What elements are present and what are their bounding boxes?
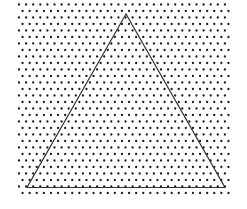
- lattice-dot: [220, 88, 222, 90]
- lattice-dot: [131, 120, 133, 122]
- lattice-dot: [43, 166, 45, 168]
- lattice-dot: [178, 49, 180, 51]
- lattice-dot: [224, 133, 226, 135]
- lattice-dot: [57, 10, 59, 12]
- lattice-dot: [181, 133, 183, 135]
- lattice-dot: [174, 146, 176, 148]
- lattice-dot: [92, 75, 94, 77]
- lattice-dot: [206, 36, 208, 38]
- lattice-dot: [89, 120, 91, 122]
- lattice-dot: [188, 94, 190, 96]
- lattice-dot: [50, 23, 52, 25]
- lattice-dot: [78, 114, 80, 116]
- lattice-dot: [110, 55, 112, 57]
- lattice-dot: [96, 29, 98, 31]
- lattice-dot: [110, 133, 112, 135]
- lattice-dot: [25, 146, 27, 148]
- lattice-dot: [21, 62, 23, 64]
- lattice-dot: [60, 172, 62, 174]
- lattice-dot: [217, 42, 219, 44]
- lattice-dot: [171, 62, 173, 64]
- lattice-dot: [142, 23, 144, 25]
- lattice-dot: [142, 140, 144, 142]
- lattice-dot: [135, 75, 137, 77]
- lattice-dot: [89, 16, 91, 18]
- lattice-dot: [82, 133, 84, 135]
- lattice-dot: [128, 114, 130, 116]
- lattice-dot: [213, 192, 215, 194]
- lattice-dot: [121, 36, 123, 38]
- lattice-dot: [188, 172, 190, 174]
- lattice-dot: [68, 16, 70, 18]
- lattice-dot: [50, 153, 52, 155]
- lattice-dot: [199, 179, 201, 181]
- lattice-dot: [135, 140, 137, 142]
- lattice-dot: [220, 10, 222, 12]
- lattice-dot: [227, 36, 229, 38]
- lattice-dot: [139, 3, 141, 5]
- lattice-dot: [220, 192, 222, 194]
- lattice-dot: [64, 23, 66, 25]
- lattice-dot: [217, 16, 219, 18]
- lattice-dot: [107, 36, 109, 38]
- lattice-dot: [156, 153, 158, 155]
- lattice-dot: [128, 101, 130, 103]
- lattice-dot: [29, 10, 31, 12]
- lattice-dot: [174, 159, 176, 161]
- lattice-dot: [192, 10, 194, 12]
- lattice-dot: [139, 133, 141, 135]
- lattice-dot: [156, 88, 158, 90]
- lattice-dot: [213, 88, 215, 90]
- lattice-dot: [160, 94, 162, 96]
- lattice-dot: [128, 75, 130, 77]
- lattice-dot: [50, 75, 52, 77]
- lattice-dot: [21, 179, 23, 181]
- lattice-dot: [53, 42, 55, 44]
- lattice-dot: [75, 159, 77, 161]
- lattice-dot: [117, 3, 119, 5]
- lattice-dot: [153, 159, 155, 161]
- lattice-dot: [39, 159, 41, 161]
- lattice-dot: [29, 153, 31, 155]
- lattice-dot: [68, 94, 70, 96]
- lattice-dot: [46, 133, 48, 135]
- lattice-dot: [174, 68, 176, 70]
- lattice-dot: [64, 10, 66, 12]
- lattice-dot: [57, 140, 59, 142]
- lattice-dot: [53, 29, 55, 31]
- lattice-dot: [227, 62, 229, 64]
- lattice-dot: [213, 36, 215, 38]
- lattice-dot: [100, 166, 102, 168]
- lattice-dot: [18, 185, 20, 187]
- lattice-dot: [206, 127, 208, 129]
- lattice-dot: [167, 133, 169, 135]
- lattice-dot: [220, 166, 222, 168]
- lattice-dot: [46, 16, 48, 18]
- lattice-dot: [110, 68, 112, 70]
- lattice-dot: [124, 120, 126, 122]
- lattice-dot: [64, 101, 66, 103]
- lattice-dot: [163, 36, 165, 38]
- lattice-dot: [213, 114, 215, 116]
- lattice-dot: [153, 107, 155, 109]
- lattice-dot: [68, 81, 70, 83]
- lattice-dot: [199, 166, 201, 168]
- lattice-dot: [149, 10, 151, 12]
- lattice-dot: [142, 62, 144, 64]
- lattice-dot: [92, 127, 94, 129]
- lattice-dot: [174, 120, 176, 122]
- lattice-dot: [178, 36, 180, 38]
- lattice-dot: [146, 172, 148, 174]
- lattice-dot: [181, 159, 183, 161]
- lattice-dot: [25, 29, 27, 31]
- lattice-dot: [68, 3, 70, 5]
- lattice-dot: [206, 23, 208, 25]
- lattice-dot: [103, 29, 105, 31]
- lattice-dot: [174, 172, 176, 174]
- lattice-dot: [185, 101, 187, 103]
- lattice-dot: [199, 75, 201, 77]
- lattice-dot: [64, 49, 66, 51]
- lattice-dot: [188, 29, 190, 31]
- lattice-dot: [153, 29, 155, 31]
- lattice-dot: [50, 10, 52, 12]
